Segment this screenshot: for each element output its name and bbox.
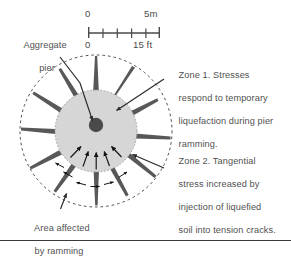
pier-core-dot	[89, 118, 103, 132]
label-zone1-line3: liquefaction during pier	[179, 116, 274, 126]
label-zone2-line2: stress increased by	[179, 179, 260, 189]
crack-10	[21, 128, 56, 135]
scale-label-bottom-left: 0	[85, 39, 90, 50]
bottom-divider	[0, 240, 291, 241]
crack-4	[134, 134, 170, 140]
crack-6	[109, 165, 129, 197]
tangential-arrow-5	[119, 172, 128, 178]
label-aggregate-pier-line1: Aggregate	[23, 40, 66, 50]
label-zone2-line4: soil into tension cracks.	[179, 225, 276, 235]
scale-label-top-left: 0	[85, 8, 90, 19]
tangential-arrow-2	[77, 183, 87, 186]
label-zone2: Zone 2. Tangential stress increased by i…	[168, 145, 290, 248]
label-area-affected-line1: Area affected	[34, 223, 90, 233]
label-zone2-line3: injection of liquefied	[179, 202, 262, 212]
scale-label-bottom-right: 15 ft	[133, 39, 152, 50]
label-aggregate-pier-line2: pier	[6, 63, 74, 74]
label-zone1-line2: respond to temporary	[179, 93, 268, 103]
crack-7	[94, 171, 99, 206]
leader-area-affected	[61, 194, 67, 210]
crack-2	[113, 66, 136, 98]
tangential-arrow-6	[56, 163, 65, 168]
crack-9	[30, 150, 63, 169]
label-area-affected-line2: by ramming	[35, 246, 84, 256]
crack-8	[54, 164, 76, 193]
scale-label-top-right: 5m	[144, 8, 158, 19]
label-aggregate-pier: Aggregate pier	[6, 29, 74, 97]
label-area-affected: Area affected by ramming	[24, 212, 116, 260]
label-zone2-line1: Zone 2. Tangential	[179, 156, 256, 166]
crack-1	[93, 56, 99, 91]
crack-5	[126, 152, 157, 178]
scale-bar	[88, 27, 160, 38]
tangential-arrow-4	[104, 182, 114, 185]
label-zone1-line1: Zone 1. Stresses	[179, 70, 250, 80]
